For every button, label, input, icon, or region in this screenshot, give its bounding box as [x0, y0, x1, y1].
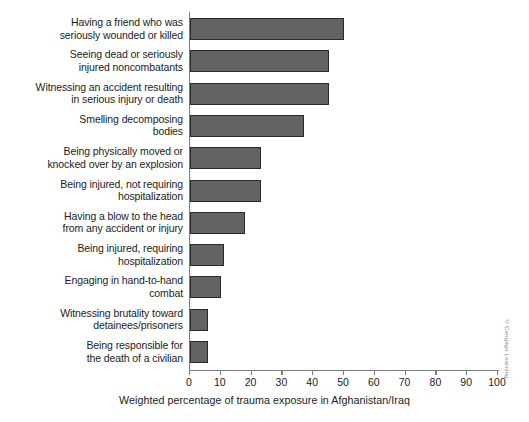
category-label: Smelling decomposing bodies: [0, 113, 183, 138]
x-tick-label: 40: [306, 376, 318, 389]
category-label: Having a blow to the head from any accid…: [0, 210, 183, 235]
bar: [190, 83, 329, 105]
plot-area: [189, 12, 497, 370]
x-tick-mark: [343, 370, 344, 375]
category-label: Witnessing an accident resulting in seri…: [0, 81, 183, 106]
copyright-credit-text: © Cengage Learning: [504, 320, 511, 379]
x-tick-label: 80: [430, 376, 442, 389]
category-axis-labels: Having a friend who was seriously wounde…: [0, 12, 186, 370]
category-label: Being responsible for the death of a civ…: [0, 339, 183, 364]
bar: [190, 180, 261, 202]
x-tick-mark: [312, 370, 313, 375]
bar: [190, 18, 344, 40]
bar-chart: Having a friend who was seriously wounde…: [0, 0, 529, 422]
x-tick-label: 70: [399, 376, 411, 389]
x-tick-label: 0: [186, 376, 192, 389]
category-label: Seeing dead or seriously injured noncomb…: [0, 48, 183, 73]
copyright-credit: © Cengage Learning: [500, 313, 514, 385]
x-tick-mark: [405, 370, 406, 375]
category-label: Being injured, not requiring hospitaliza…: [0, 178, 183, 203]
x-tick-label: 60: [368, 376, 380, 389]
x-tick-mark: [189, 370, 190, 375]
bar: [190, 276, 221, 298]
bar: [190, 244, 224, 266]
category-label: Having a friend who was seriously wounde…: [0, 16, 183, 41]
category-label: Being physically moved or knocked over b…: [0, 145, 183, 170]
x-tick-mark: [374, 370, 375, 375]
category-label: Witnessing brutality toward detainees/pr…: [0, 307, 183, 332]
bar: [190, 341, 208, 363]
x-tick-label: 30: [276, 376, 288, 389]
x-tick-mark: [466, 370, 467, 375]
bar: [190, 147, 261, 169]
x-tick-label: 50: [337, 376, 349, 389]
category-label: Being injured, requiring hospitalization: [0, 242, 183, 267]
x-axis-tick-labels: 0102030405060708090100: [189, 376, 499, 390]
bar: [190, 115, 304, 137]
x-tick-label: 20: [245, 376, 257, 389]
bar: [190, 212, 245, 234]
x-tick-mark: [497, 370, 498, 375]
x-tick-mark: [220, 370, 221, 375]
bar: [190, 309, 208, 331]
x-tick-label: 10: [214, 376, 226, 389]
x-tick-mark: [281, 370, 282, 375]
bar: [190, 50, 329, 72]
x-tick-label: 90: [460, 376, 472, 389]
x-tick-mark: [435, 370, 436, 375]
x-tick-mark: [251, 370, 252, 375]
x-axis-title: Weighted percentage of trauma exposure i…: [0, 394, 529, 406]
category-label: Engaging in hand-to-hand combat: [0, 274, 183, 299]
